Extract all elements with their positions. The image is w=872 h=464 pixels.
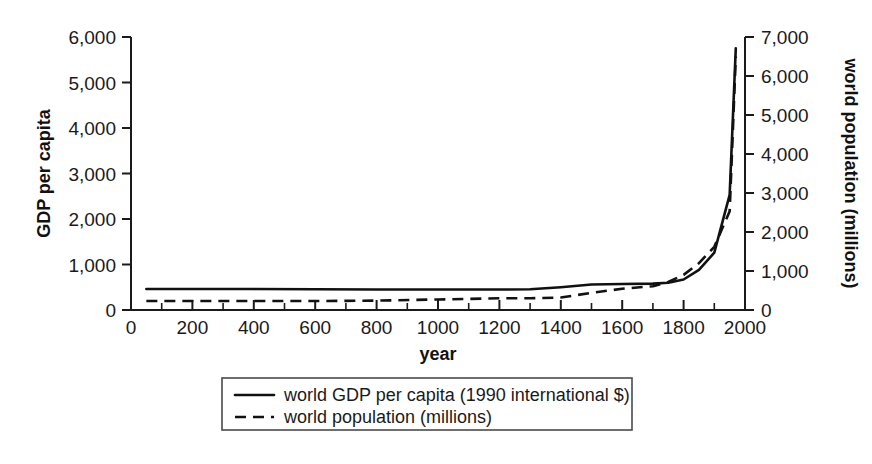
right-tick-label: 3,000 <box>761 183 809 204</box>
x-tick-label: 1800 <box>662 317 704 338</box>
left-tick-label: 0 <box>105 300 116 321</box>
legend-label-world-population: world population (millions) <box>283 407 492 427</box>
right-axis-ticks <box>745 37 754 310</box>
x-tick-label: 1400 <box>540 317 582 338</box>
series-world-population-line <box>146 57 735 302</box>
x-tick-label: 200 <box>177 317 209 338</box>
right-tick-label: 6,000 <box>761 66 809 87</box>
right-axis-title: world population (millions) <box>841 58 861 289</box>
left-tick-label: 2,000 <box>68 209 116 230</box>
left-tick-label: 5,000 <box>68 73 116 94</box>
x-tick-label: 1000 <box>417 317 459 338</box>
chart-legend: world GDP per capita (1990 international… <box>222 378 632 430</box>
left-tick-label: 3,000 <box>68 164 116 185</box>
left-tick-label: 6,000 <box>68 27 116 48</box>
right-tick-label: 5,000 <box>761 105 809 126</box>
right-tick-label: 0 <box>761 300 772 321</box>
x-tick-label: 2000 <box>724 317 766 338</box>
series-world-gdp-per-capita-line <box>146 48 735 289</box>
x-tick-label: 1600 <box>601 317 643 338</box>
x-tick-label: 400 <box>238 317 270 338</box>
x-tick-label: 0 <box>126 317 137 338</box>
chart-figure: 0200400600800100012001400160018002000 01… <box>0 0 872 464</box>
left-axis-ticks <box>122 37 131 310</box>
x-tick-label: 600 <box>299 317 331 338</box>
left-tick-label: 4,000 <box>68 118 116 139</box>
right-tick-label: 4,000 <box>761 144 809 165</box>
left-tick-label: 1,000 <box>68 255 116 276</box>
chart-svg: 0200400600800100012001400160018002000 01… <box>0 0 872 464</box>
x-axis-tick-labels: 0200400600800100012001400160018002000 <box>126 317 766 338</box>
x-tick-label: 1200 <box>478 317 520 338</box>
right-tick-label: 1,000 <box>761 261 809 282</box>
x-axis-title: year <box>419 344 456 364</box>
right-axis-tick-labels: 01,0002,0003,0004,0005,0006,0007,000 <box>761 27 809 321</box>
left-axis-title: GDP per capita <box>34 108 54 238</box>
legend-label-world-gdp-per-capita: world GDP per capita (1990 international… <box>283 385 630 405</box>
right-tick-label: 7,000 <box>761 27 809 48</box>
right-tick-label: 2,000 <box>761 222 809 243</box>
x-tick-label: 800 <box>361 317 393 338</box>
left-axis-tick-labels: 01,0002,0003,0004,0005,0006,000 <box>68 27 116 321</box>
